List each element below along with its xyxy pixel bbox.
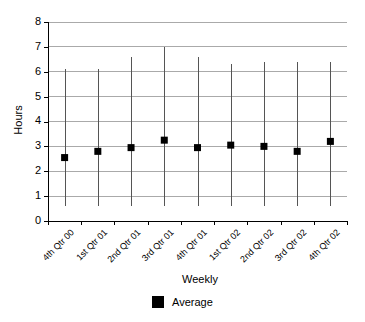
y-tick-label: 3 [35,139,41,151]
x-tick-label: 4th Qtr 02 [306,227,341,262]
data-marker [260,143,267,150]
hours-range-chart: 012345678 4th Qtr 001st Qtr 012nd Qtr 01… [0,0,365,322]
x-tick-label: 1st Qtr 02 [207,227,242,262]
y-tick-label: 5 [35,90,41,102]
data-marker [327,138,334,145]
chart-figure: 012345678 4th Qtr 001st Qtr 012nd Qtr 01… [0,0,365,322]
data-markers-group [61,137,334,161]
y-axis-title: Hours [12,105,24,135]
data-marker [161,137,168,144]
y-tick-label: 1 [35,189,41,201]
data-marker [294,148,301,155]
x-tick-label: 4th Qtr 01 [174,227,209,262]
x-axis-title: Weekly [182,273,218,285]
data-marker [61,154,68,161]
x-tick-labels-group: 4th Qtr 001st Qtr 012nd Qtr 013rd Qtr 01… [41,227,342,264]
x-tick-label: 4th Qtr 00 [41,227,76,262]
range-bars-group [66,47,331,206]
x-tick-label: 3rd Qtr 01 [140,227,176,263]
y-tick-label: 8 [35,15,41,27]
x-tick-label: 3rd Qtr 02 [273,227,309,263]
data-marker [194,144,201,151]
gridlines-group [48,22,347,196]
legend-marker-average [152,296,164,308]
legend-label-average: Average [172,296,213,308]
x-tick-label: 2nd Qtr 01 [105,227,142,264]
data-marker [227,142,234,149]
y-tick-label: 4 [35,114,41,126]
y-tick-label: 6 [35,65,41,77]
x-tick-label: 2nd Qtr 02 [238,227,275,264]
y-tick-labels-group: 012345678 [35,15,48,226]
x-tick-label: 1st Qtr 01 [74,227,109,262]
y-tick-label: 2 [35,164,41,176]
data-marker [94,148,101,155]
data-marker [128,144,135,151]
y-tick-label: 0 [35,214,41,226]
y-tick-label: 7 [35,40,41,52]
legend: Average [152,296,213,308]
